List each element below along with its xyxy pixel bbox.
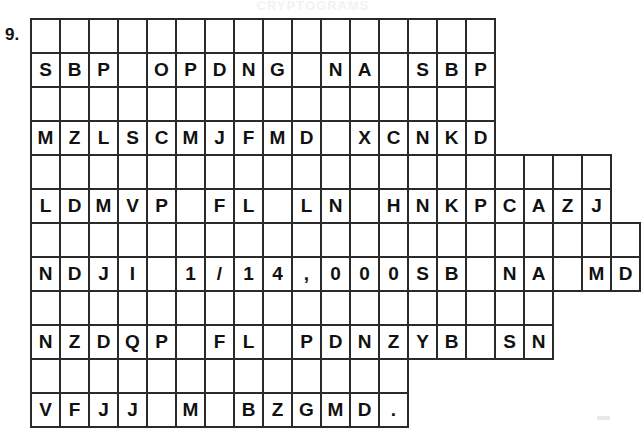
answer-cell[interactable]: [409, 292, 438, 326]
answer-cell[interactable]: [235, 292, 264, 326]
answer-cell[interactable]: [583, 224, 612, 258]
answer-cell[interactable]: [322, 20, 351, 54]
answer-cell[interactable]: [90, 224, 119, 258]
answer-cell[interactable]: [438, 224, 467, 258]
answer-cell[interactable]: [119, 20, 148, 54]
answer-cell[interactable]: [148, 224, 177, 258]
answer-cell[interactable]: [148, 292, 177, 326]
answer-cell[interactable]: [264, 224, 293, 258]
answer-cell[interactable]: [206, 224, 235, 258]
answer-cell[interactable]: [264, 292, 293, 326]
answer-cell[interactable]: [32, 224, 61, 258]
answer-cell[interactable]: [351, 156, 380, 190]
answer-cell[interactable]: [409, 156, 438, 190]
answer-cell[interactable]: [90, 88, 119, 122]
answer-cell[interactable]: [119, 224, 148, 258]
answer-cell[interactable]: [90, 360, 119, 394]
answer-cell[interactable]: [177, 20, 206, 54]
answer-cell[interactable]: [554, 156, 583, 190]
answer-cell[interactable]: [293, 224, 322, 258]
answer-cell[interactable]: [264, 360, 293, 394]
answer-cell[interactable]: [61, 20, 90, 54]
answer-cell[interactable]: [351, 360, 380, 394]
answer-cell[interactable]: [177, 224, 206, 258]
answer-cell[interactable]: [206, 88, 235, 122]
answer-cell[interactable]: [438, 156, 467, 190]
answer-cell[interactable]: [61, 88, 90, 122]
answer-cell[interactable]: [235, 360, 264, 394]
answer-cell[interactable]: [32, 20, 61, 54]
answer-cell[interactable]: [467, 292, 496, 326]
answer-cell[interactable]: [525, 292, 554, 326]
answer-cell[interactable]: [322, 224, 351, 258]
answer-cell[interactable]: [206, 360, 235, 394]
answer-cell[interactable]: [32, 88, 61, 122]
answer-cell[interactable]: [293, 292, 322, 326]
answer-cell[interactable]: [119, 360, 148, 394]
answer-cell[interactable]: [32, 360, 61, 394]
answer-cell[interactable]: [119, 292, 148, 326]
answer-cell[interactable]: [467, 20, 496, 54]
answer-cell[interactable]: [612, 224, 641, 258]
answer-cell[interactable]: [148, 156, 177, 190]
answer-cell[interactable]: [380, 88, 409, 122]
answer-cell[interactable]: [380, 360, 409, 394]
answer-cell[interactable]: [148, 20, 177, 54]
answer-cell[interactable]: [235, 156, 264, 190]
answer-cell[interactable]: [380, 20, 409, 54]
answer-cell[interactable]: [351, 224, 380, 258]
answer-cell[interactable]: [32, 156, 61, 190]
answer-cell[interactable]: [61, 292, 90, 326]
answer-cell[interactable]: [322, 156, 351, 190]
answer-cell[interactable]: [525, 156, 554, 190]
answer-cell[interactable]: [293, 156, 322, 190]
answer-cell[interactable]: [177, 156, 206, 190]
answer-cell[interactable]: [235, 20, 264, 54]
answer-cell[interactable]: [90, 156, 119, 190]
answer-cell[interactable]: [206, 292, 235, 326]
answer-cell[interactable]: [32, 292, 61, 326]
answer-cell[interactable]: [322, 292, 351, 326]
answer-cell[interactable]: [351, 20, 380, 54]
answer-cell[interactable]: [351, 292, 380, 326]
answer-cell[interactable]: [119, 88, 148, 122]
answer-cell[interactable]: [119, 156, 148, 190]
answer-cell[interactable]: [264, 88, 293, 122]
answer-cell[interactable]: [235, 88, 264, 122]
answer-cell[interactable]: [496, 224, 525, 258]
answer-cell[interactable]: [409, 224, 438, 258]
answer-cell[interactable]: [380, 224, 409, 258]
answer-cell[interactable]: [264, 20, 293, 54]
answer-cell[interactable]: [525, 224, 554, 258]
answer-cell[interactable]: [322, 360, 351, 394]
answer-cell[interactable]: [496, 292, 525, 326]
answer-cell[interactable]: [148, 360, 177, 394]
answer-cell[interactable]: [409, 20, 438, 54]
answer-cell[interactable]: [293, 88, 322, 122]
answer-cell[interactable]: [467, 88, 496, 122]
answer-cell[interactable]: [438, 88, 467, 122]
answer-cell[interactable]: [380, 292, 409, 326]
answer-cell[interactable]: [177, 360, 206, 394]
answer-cell[interactable]: [61, 224, 90, 258]
answer-cell[interactable]: [61, 156, 90, 190]
answer-cell[interactable]: [496, 156, 525, 190]
answer-cell[interactable]: [438, 292, 467, 326]
answer-cell[interactable]: [90, 292, 119, 326]
answer-cell[interactable]: [264, 156, 293, 190]
answer-cell[interactable]: [206, 156, 235, 190]
answer-cell[interactable]: [177, 292, 206, 326]
answer-cell[interactable]: [467, 156, 496, 190]
answer-cell[interactable]: [322, 88, 351, 122]
answer-cell[interactable]: [177, 88, 206, 122]
answer-cell[interactable]: [293, 360, 322, 394]
answer-cell[interactable]: [438, 20, 467, 54]
answer-cell[interactable]: [380, 156, 409, 190]
answer-cell[interactable]: [293, 20, 322, 54]
answer-cell[interactable]: [583, 156, 612, 190]
answer-cell[interactable]: [554, 224, 583, 258]
answer-cell[interactable]: [235, 224, 264, 258]
answer-cell[interactable]: [206, 20, 235, 54]
answer-cell[interactable]: [148, 88, 177, 122]
answer-cell[interactable]: [90, 20, 119, 54]
